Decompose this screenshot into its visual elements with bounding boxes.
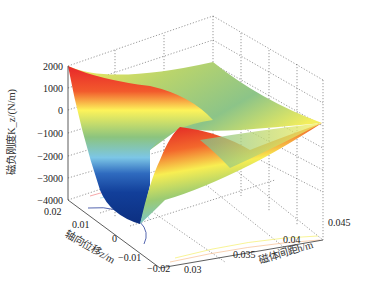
- z-tick: −1000: [37, 128, 63, 139]
- z-tick: 2000: [43, 61, 63, 72]
- y-axis-label: 轴向位移z/m: [63, 227, 117, 265]
- z-tick: 1000: [43, 83, 63, 94]
- z-axis-ticks: 2000 1000 0 −1000 −2000 −3000 −4000: [37, 61, 63, 206]
- z-tick: −3000: [37, 173, 63, 184]
- surface: [68, 62, 322, 224]
- x-axis-ticks: 0.03 0.035 0.04 0.045: [184, 217, 351, 275]
- y-tick: 0: [112, 233, 117, 244]
- y-tick: −0.01: [118, 252, 141, 263]
- x-tick: 0.03: [184, 264, 202, 275]
- z-tick: −4000: [37, 195, 63, 206]
- y-tick: −0.02: [147, 263, 170, 274]
- y-axis-ticks: 0.02 0.01 0 −0.01 −0.02: [44, 206, 170, 274]
- x-tick: 0.045: [328, 217, 351, 228]
- y-tick: 0.01: [72, 219, 90, 230]
- x-tick: 0.035: [233, 249, 256, 260]
- z-tick: −2000: [37, 151, 63, 162]
- z-axis-label: 磁负刚度K_z/(N/m): [5, 88, 18, 175]
- y-tick: 0.02: [44, 206, 62, 217]
- z-tick: 0: [58, 105, 63, 116]
- surface-plot: 2000 1000 0 −1000 −2000 −3000 −4000 0.02…: [0, 0, 366, 289]
